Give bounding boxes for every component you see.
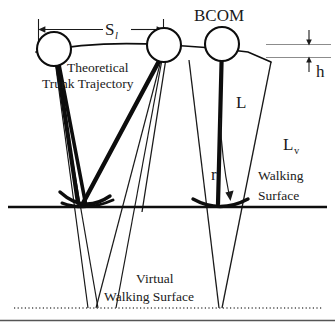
h-dimension-arrows: [306, 30, 312, 72]
h-label: h: [316, 62, 325, 81]
trunk-trajectory-diagram: h Sl BCOM: [0, 0, 335, 324]
virtual-leg-length-label: Lv: [283, 135, 300, 156]
leg-length-label: L: [236, 93, 246, 112]
theoretical-trajectory-label-line2: Trunk Trajectory: [42, 76, 134, 91]
biomechanics-figure: h Sl BCOM: [0, 0, 335, 324]
radius-arrow: [220, 118, 234, 201]
bcom-marker-left: [37, 32, 71, 66]
virtual-surface-label-line2: Walking Surface: [104, 289, 194, 304]
walking-surface-label-line1: Walking: [258, 168, 304, 183]
virtual-surface-label-line1: Virtual: [136, 271, 174, 286]
step-length-label: Sl: [105, 20, 118, 41]
walking-surface-label-line2: Surface: [258, 188, 299, 203]
theoretical-trajectory-label-line1: Theoretical: [67, 60, 129, 75]
bcom-label: BCOM: [194, 6, 244, 25]
bcom-marker-right: [205, 27, 239, 61]
bcom-marker-middle: [147, 28, 181, 62]
rocker-radius-label: r: [211, 165, 217, 184]
